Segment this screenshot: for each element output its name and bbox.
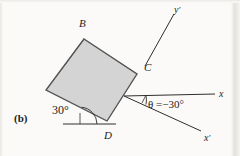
prime-mark-y: ′ — [178, 5, 180, 15]
axis-label-x-prime: x′ — [204, 133, 210, 143]
angle-tick-theta — [142, 95, 146, 103]
axis-line-x — [124, 94, 215, 96]
axis-label-y-prime: y′ — [174, 5, 180, 15]
prime-mark-x: ′ — [208, 133, 210, 143]
axis-label-x: x — [219, 89, 223, 99]
axis-line-y-prime — [145, 14, 174, 66]
angle-label-30: 30° — [52, 104, 69, 116]
angle-label-theta: θ =−30° — [148, 99, 184, 110]
panel-label: (b) — [14, 113, 27, 124]
vertex-label-c: C — [144, 62, 151, 73]
figure-panel-b: (b) B C D x x′ y′ 30° θ =−30° — [0, 0, 240, 156]
vertex-label-b: B — [79, 18, 86, 29]
vertex-label-d: D — [104, 130, 112, 141]
